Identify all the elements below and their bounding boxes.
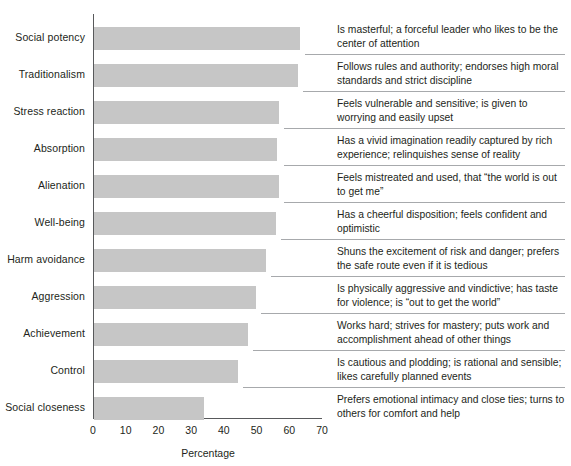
description-text: Feels vulnerable and sensitive; is given… — [337, 97, 565, 124]
x-axis-title: Percentage — [93, 447, 323, 459]
row-divider — [305, 54, 565, 55]
description-text: Feels mistreated and used, that “the wor… — [337, 171, 565, 198]
description-text: Shuns the excitement of risk and danger;… — [337, 245, 565, 272]
row-divider — [284, 128, 565, 129]
description-column: Is masterful; a forceful leader who like… — [0, 0, 571, 430]
description-text: Has a vivid imagination readily captured… — [337, 134, 565, 161]
bar-chart-figure: Social potency Traditionalism Stress rea… — [0, 0, 571, 466]
row-divider — [253, 350, 565, 351]
row-divider — [243, 387, 565, 388]
row-divider — [261, 313, 565, 314]
description-text: Follows rules and authority; endorses hi… — [337, 60, 565, 87]
description-text: Is masterful; a forceful leader who like… — [337, 23, 565, 50]
description-text: Prefers emotional intimacy and close tie… — [337, 393, 565, 420]
row-divider — [281, 239, 565, 240]
row-divider — [271, 276, 565, 277]
description-text: Is cautious and plodding; is rational an… — [337, 356, 565, 383]
row-divider — [303, 91, 565, 92]
row-divider — [284, 165, 565, 166]
row-divider — [284, 202, 565, 203]
description-text: Has a cheerful disposition; feels confid… — [337, 208, 565, 235]
description-text: Is physically aggressive and vindictive;… — [337, 282, 565, 309]
description-text: Works hard; strives for mastery; puts wo… — [337, 319, 565, 346]
